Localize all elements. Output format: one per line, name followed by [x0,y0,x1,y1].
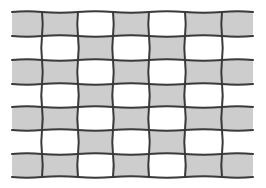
weave-cell [42,107,78,130]
weave-cell [113,154,149,177]
vertical-thread-line [221,12,222,177]
weave-cell [12,12,42,36]
horizontal-thread-line [12,176,253,178]
weave-cell [185,154,222,177]
weave-cell [185,12,222,36]
horizontal-thread-line [12,35,253,37]
horizontal-thread-line [12,11,253,13]
weave-cell [12,60,42,84]
vertical-thread-line [184,12,185,177]
weave-cell [222,154,253,177]
horizontal-threads [12,11,253,178]
weave-cell [222,107,253,130]
weave-cell [42,154,78,177]
horizontal-thread-line [12,59,253,61]
weave-cell [12,107,42,130]
weave-cell [78,130,113,154]
weave-cell [12,154,42,177]
vertical-thread-line [112,12,113,177]
weave-cell [78,84,113,107]
weave-cell [42,12,78,36]
weave-cell [185,60,222,84]
vertical-thread-line [77,12,78,177]
vertical-thread-line [148,12,149,177]
filled-cells [12,12,253,177]
horizontal-thread-line [12,129,253,131]
weave-cell [78,36,113,60]
weave-cell [222,60,253,84]
weave-cell [222,12,253,36]
weave-cell [185,107,222,130]
weave-cell [113,60,149,84]
weave-cell [42,60,78,84]
weave-cell [113,107,149,130]
vertical-threads [41,12,222,177]
vertical-thread-line [41,12,42,177]
horizontal-thread-line [12,83,253,85]
weave-cell [149,84,185,107]
weave-cell [149,130,185,154]
weave-pattern-diagram [0,0,266,188]
horizontal-thread-line [12,153,253,155]
horizontal-thread-line [12,106,253,108]
weave-cell [113,12,149,36]
weave-cell [149,36,185,60]
